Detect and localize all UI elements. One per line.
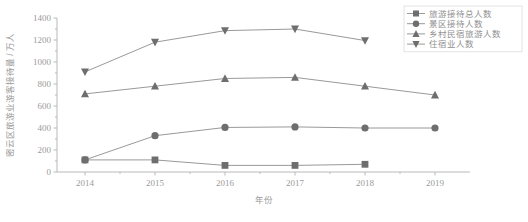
y-tick-label: 200	[38, 145, 52, 155]
legend-item-label: 旅游接待总人数	[429, 9, 492, 19]
marker-square	[152, 157, 159, 164]
series-group	[82, 157, 369, 169]
marker-square	[413, 11, 419, 17]
marker-circle	[361, 124, 368, 131]
series-group	[81, 123, 438, 163]
legend: 旅游接待总人数景区接待人数乡村民宿旅游人数住宿业人数	[404, 6, 522, 52]
y-tick-label: 400	[38, 123, 52, 133]
legend-item-label: 乡村民宿旅游人数	[429, 29, 501, 39]
marker-circle	[81, 156, 88, 163]
x-axis-title: 年份	[255, 195, 273, 205]
x-tick-label: 2019	[426, 178, 445, 188]
legend-item-label: 住宿业人数	[429, 39, 474, 49]
y-tick-label: 600	[38, 101, 52, 111]
series-line	[85, 29, 365, 72]
series-line	[85, 77, 435, 95]
marker-circle	[221, 124, 228, 131]
marker-circle	[291, 123, 298, 130]
line-chart: 0200400600800100012001400201420152016201…	[0, 0, 528, 222]
marker-triangle-down	[361, 37, 369, 45]
marker-circle	[151, 132, 158, 139]
y-tick-label: 0	[47, 167, 52, 177]
y-axis-title: 密云区旅游业游客接待量 / 万人	[5, 33, 15, 157]
marker-square	[292, 162, 299, 169]
x-tick-label: 2016	[216, 178, 235, 188]
x-tick-label: 2015	[146, 178, 165, 188]
series-line	[85, 127, 435, 160]
y-tick-label: 1000	[33, 57, 52, 67]
marker-triangle-down	[81, 69, 89, 77]
marker-square	[362, 161, 369, 168]
x-tick-label: 2017	[286, 178, 305, 188]
y-tick-label: 1400	[33, 13, 52, 23]
y-tick-label: 1200	[33, 35, 52, 45]
marker-square	[222, 162, 229, 169]
marker-circle	[413, 21, 419, 27]
x-tick-label: 2014	[76, 178, 95, 188]
marker-triangle-down	[151, 39, 159, 47]
series-group	[81, 26, 369, 77]
marker-circle	[431, 124, 438, 131]
legend-item-label: 景区接待人数	[429, 19, 483, 29]
y-axis-ticks: 0200400600800100012001400	[33, 13, 57, 177]
chart-container: 0200400600800100012001400201420152016201…	[0, 0, 528, 222]
x-axis-ticks: 201420152016201720182019	[76, 172, 445, 188]
x-tick-label: 2018	[356, 178, 375, 188]
y-tick-label: 800	[38, 79, 52, 89]
series-group	[81, 73, 439, 98]
